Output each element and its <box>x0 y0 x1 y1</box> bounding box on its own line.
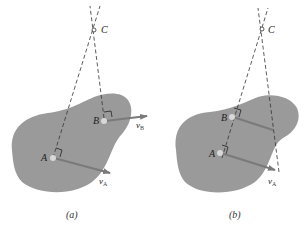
label-point-b: B <box>221 112 227 123</box>
label-velocity-a: vA <box>268 176 277 187</box>
label-point-a: A <box>208 148 216 159</box>
panel-b: A B C vA (b) <box>176 8 299 221</box>
instant-center-c <box>92 28 96 32</box>
point-a <box>217 150 223 156</box>
label-velocity-a: vA <box>99 176 108 187</box>
rigid-body-b <box>176 95 299 192</box>
label-point-b: B <box>93 115 99 126</box>
panel-a: A B C vA vB (a) <box>12 6 147 221</box>
point-b <box>229 114 235 120</box>
point-b <box>101 118 107 124</box>
point-a <box>50 155 56 161</box>
caption-b: (b) <box>229 209 241 221</box>
label-point-c: C <box>101 24 108 35</box>
label-velocity-b: vB <box>136 120 144 131</box>
caption-a: (a) <box>66 209 78 221</box>
rigid-body-a <box>12 94 132 193</box>
label-point-a: A <box>40 152 48 163</box>
instant-center-c <box>260 27 264 31</box>
label-point-c: C <box>268 24 275 35</box>
kinematics-figure: A B C vA vB (a) A B C vA <box>0 0 307 229</box>
